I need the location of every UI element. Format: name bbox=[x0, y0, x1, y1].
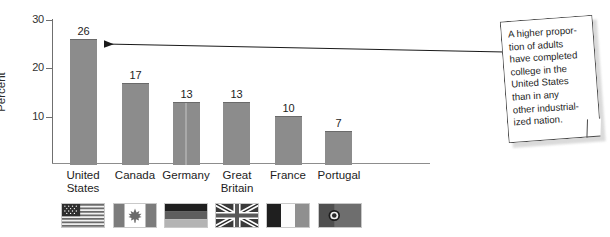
callout-arrow bbox=[95, 34, 515, 62]
bar-chart-figure: 30 20 10 Percent 26 17 13 13 10 7 United… bbox=[0, 0, 610, 237]
category-label-portugal: Portugal bbox=[308, 169, 370, 182]
flag-portugal-icon bbox=[318, 203, 362, 228]
category-label-line2: States bbox=[52, 182, 114, 195]
flag-france-icon bbox=[266, 203, 310, 228]
y-axis-title-wrap: Percent bbox=[0, 46, 8, 138]
flag-united-states-icon bbox=[61, 203, 105, 228]
flag-great-britain-icon bbox=[215, 203, 259, 228]
callout-text: A higher propor- tion of adults have com… bbox=[508, 24, 594, 130]
bar-value-great-britain: 13 bbox=[231, 88, 243, 100]
bar-value-france: 10 bbox=[283, 102, 295, 114]
flag-canada-icon bbox=[113, 203, 157, 228]
y-tick-label-30: 30 bbox=[18, 13, 44, 25]
bar-value-canada: 17 bbox=[130, 69, 142, 81]
y-axis-title: Percent bbox=[0, 72, 7, 112]
bar-united-states: 26 bbox=[70, 39, 97, 165]
bar-portugal: 7 bbox=[325, 131, 352, 165]
bar-value-united-states: 26 bbox=[78, 25, 90, 37]
category-label-line2: Britain bbox=[206, 182, 268, 195]
flag-germany-icon bbox=[164, 203, 208, 228]
y-tick-label-20: 20 bbox=[18, 61, 44, 73]
bar-germany: 13 bbox=[173, 102, 200, 165]
y-tick-label-10: 10 bbox=[18, 110, 44, 122]
bar-value-germany: 13 bbox=[181, 88, 193, 100]
bar-france: 10 bbox=[275, 116, 302, 165]
callout-note: A higher propor- tion of adults have com… bbox=[500, 15, 602, 143]
bar-canada: 17 bbox=[122, 83, 149, 165]
bar-great-britain: 13 bbox=[223, 102, 250, 165]
category-label-line1: Portugal bbox=[308, 169, 370, 182]
bar-value-portugal: 7 bbox=[336, 117, 342, 129]
